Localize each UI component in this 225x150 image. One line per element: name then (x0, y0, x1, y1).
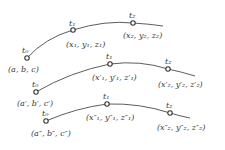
curve-1-coords-t0: (a, b, c) (8, 65, 39, 74)
curve-3-label-t2: t₂ (166, 101, 172, 110)
curve-2-coords-t1: (x′₁, y′₁, z′₁) (92, 73, 137, 82)
curve-3-label-t0: t₀ (42, 109, 49, 118)
curve-1-label-t2: t₂ (129, 11, 135, 20)
curve-2-point-t2 (166, 67, 170, 71)
curve-1-label-t0: t₀ (22, 46, 29, 55)
curve-2-point-t0 (34, 90, 38, 94)
curve-1-point-t2 (131, 21, 135, 25)
curve-2-coords-t2: (x′₂, y′₂, z′₂) (158, 80, 203, 89)
curve-3-label-t1: t₁ (103, 92, 109, 101)
curve-1-point-t1 (71, 28, 75, 32)
curve-3-coords-t0: (a″, b″, c″) (31, 129, 71, 138)
curve-1-coords-t2: (x₂, y₂, z₂) (123, 31, 162, 40)
curve-3-point-t0 (44, 119, 48, 123)
curve-2-point-t1 (108, 62, 112, 66)
curve-2-label-t0: t₀ (32, 80, 39, 89)
curve-2-label-t2: t₂ (165, 57, 171, 66)
curves-diagram: t₀ t₁ t₂ (a, b, c) (x₁, y₁, z₁) (x₂, y₂,… (0, 0, 225, 150)
curve-3-point-t1 (105, 102, 109, 106)
curve-2-coords-t0: (a′, b′, c′) (17, 99, 53, 108)
curve-3-point-t2 (168, 111, 172, 115)
curve-2-label-t1: t₁ (106, 52, 112, 61)
curve-1-coords-t1: (x₁, y₁, z₁) (66, 40, 105, 49)
curve-1-point-t0 (25, 56, 29, 60)
curve-1-label-t1: t₁ (69, 19, 75, 28)
curve-3-coords-t1: (x″₁, y″₁, z″₁) (86, 113, 134, 122)
curve-3-coords-t2: (x″₂, y″₂, z″₂) (157, 123, 205, 132)
